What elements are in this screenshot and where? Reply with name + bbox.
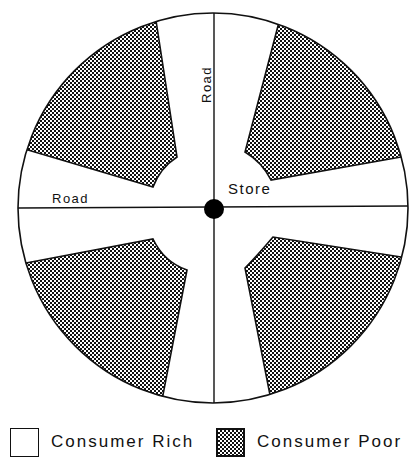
road-horizontal-label: Road: [52, 191, 89, 206]
legend-label-consumer-poor: Consumer Poor: [257, 432, 402, 452]
legend-item-consumer-rich: Consumer Rich: [10, 426, 194, 458]
region-consumer-poor-top-right: [245, 0, 418, 180]
store-marker: [204, 199, 224, 219]
consumer-poor-swatch: [216, 428, 245, 457]
legend-item-consumer-poor: Consumer Poor: [216, 426, 402, 458]
market-area-diagram: Road Road Store: [0, 0, 418, 472]
region-consumer-poor-top-left: [0, 0, 177, 187]
legend-label-consumer-rich: Consumer Rich: [51, 432, 194, 452]
consumer-rich-swatch: [10, 428, 39, 457]
road-vertical-label: Road: [199, 66, 214, 103]
store-label: Store: [228, 180, 271, 197]
